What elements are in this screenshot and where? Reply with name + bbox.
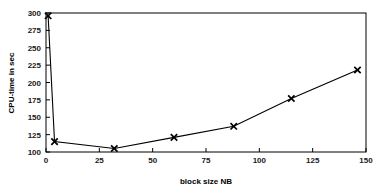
chart-background	[0, 0, 386, 191]
y-tick-label: 200	[28, 79, 42, 88]
y-tick-label: 125	[28, 131, 42, 140]
y-tick-label: 250	[28, 44, 42, 53]
y-axis-tick-labels: 100125150175200225250275300	[28, 9, 42, 157]
x-tick-label: 50	[148, 156, 157, 165]
x-tick-label: 125	[306, 156, 320, 165]
x-tick-label: 100	[253, 156, 267, 165]
y-tick-label: 150	[28, 113, 42, 122]
line-chart: 0255075100125150 10012515017520022525027…	[0, 0, 386, 191]
chart-container: 0255075100125150 10012515017520022525027…	[0, 0, 386, 191]
x-tick-label: 150	[359, 156, 373, 165]
y-tick-label: 100	[28, 148, 42, 157]
y-tick-label: 225	[28, 61, 42, 70]
y-tick-label: 175	[28, 96, 42, 105]
x-tick-label: 0	[44, 156, 49, 165]
y-tick-label: 275	[28, 26, 42, 35]
y-tick-label: 300	[28, 9, 42, 18]
y-axis-title: CPU-time in sec	[7, 52, 16, 113]
x-axis-title: block size NB	[180, 177, 232, 186]
x-tick-label: 75	[202, 156, 211, 165]
x-tick-label: 25	[95, 156, 104, 165]
